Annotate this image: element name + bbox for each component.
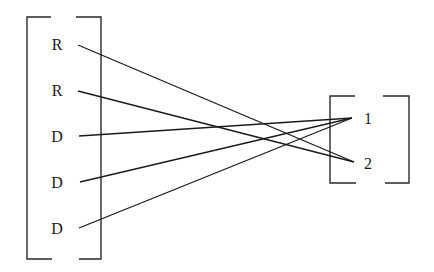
left-bracket-left [27,17,52,259]
right-set-labels: 1 2 [364,110,372,172]
edge-r1-to-2 [78,45,354,162]
left-item-d3: D [51,220,63,237]
right-item-1: 1 [364,110,372,127]
left-item-r2: R [52,82,63,99]
left-set-labels: R R D D D [51,36,63,237]
right-bracket-left [330,96,356,183]
left-item-d1: D [51,128,63,145]
left-item-r1: R [52,36,63,53]
left-item-d2: D [51,174,63,191]
right-bracket-right [383,96,409,183]
left-set-bracket [27,17,101,259]
mapping-edges [78,45,354,228]
right-item-2: 2 [364,155,372,172]
mapping-diagram: R R D D D 1 2 [0,0,434,272]
